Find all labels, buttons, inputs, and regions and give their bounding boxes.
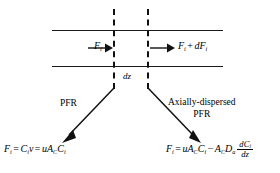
inlet-flow-label: Fi (94, 41, 102, 51)
axially-dispersed-pfr-equation: Fi=uACCi−ACDadCidz (166, 140, 253, 159)
axially-dispersed-pfr-branch-label: Axially-dispersed PFR (168, 96, 236, 120)
outlet-flow-arrow-icon (150, 42, 176, 54)
channel-top-wall (52, 30, 223, 31)
pfr-branch-arrow-icon (60, 86, 118, 148)
branch-label-line-1: Axially-dispersed (168, 96, 236, 108)
pfr-equation: Fi=Civ=uACCi (4, 144, 66, 154)
control-volume-right-boundary (147, 9, 149, 89)
pfr-branch-label: PFR (60, 98, 77, 108)
channel-bottom-wall (52, 66, 223, 67)
outlet-flow-label: Fi+dFi (178, 41, 207, 51)
control-volume-thickness-label: dz (123, 72, 131, 81)
concentration-gradient-fraction: dCidz (237, 140, 253, 159)
diagram-canvas: Fi Fi+dFi dz PFR Axially-dispersed PFR F… (0, 0, 280, 173)
branch-label-line-2: PFR (168, 108, 236, 120)
